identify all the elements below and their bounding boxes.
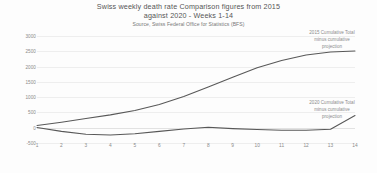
x-tick-label-3: 3 bbox=[85, 143, 88, 148]
x-tick-label-4: 4 bbox=[109, 143, 112, 148]
x-tick-label-5: 5 bbox=[134, 143, 137, 148]
x-tick-label-10: 10 bbox=[254, 143, 259, 148]
x-tick-label-6: 6 bbox=[158, 143, 161, 148]
series-lines bbox=[37, 36, 355, 143]
y-axis-labels: 300025002000150010005000-500 bbox=[10, 36, 36, 143]
annotation-2015-line-2: minus cumulative bbox=[292, 37, 372, 44]
annotation-2015: 2015 Cumulative Total minus cumulative p… bbox=[292, 30, 372, 51]
annotation-2015-line-3: projection bbox=[292, 44, 372, 51]
x-tick-label-7: 7 bbox=[182, 143, 185, 148]
annotation-2020-line-1: 2020 Cumulative Total bbox=[292, 100, 372, 107]
annotation-2020: 2020 Cumulative Total minus cumulative p… bbox=[292, 100, 372, 121]
x-tick-label-9: 9 bbox=[231, 143, 234, 148]
x-tick-label-12: 12 bbox=[303, 143, 308, 148]
y-tick-label--500: -500 bbox=[10, 141, 36, 146]
y-tick-label-2500: 2500 bbox=[10, 49, 36, 54]
x-axis-labels: 1234567891011121314 bbox=[37, 143, 355, 153]
annotation-2020-line-3: projection bbox=[292, 114, 372, 121]
annotation-2015-line-1: 2015 Cumulative Total bbox=[292, 30, 372, 37]
chart-title-line-2: against 2020 - Weeks 1-14 bbox=[0, 12, 377, 20]
x-tick-label-14: 14 bbox=[352, 143, 357, 148]
x-tick-label-11: 11 bbox=[279, 143, 284, 148]
x-tick-label-1: 1 bbox=[36, 143, 39, 148]
x-tick-label-2: 2 bbox=[60, 143, 63, 148]
x-tick-label-13: 13 bbox=[328, 143, 333, 148]
annotation-2020-line-2: minus cumulative bbox=[292, 107, 372, 114]
y-tick-label-2000: 2000 bbox=[10, 64, 36, 69]
y-tick-label-0: 0 bbox=[10, 125, 36, 130]
chart-title-line-1: Swiss weekly death rate Comparison figur… bbox=[0, 3, 377, 11]
y-tick-label-500: 500 bbox=[10, 110, 36, 115]
y-tick-label-1000: 1000 bbox=[10, 95, 36, 100]
x-tick-label-8: 8 bbox=[207, 143, 210, 148]
y-tick-label-3000: 3000 bbox=[10, 34, 36, 39]
chart-source-note: Source, Swiss Federal Office for Statist… bbox=[0, 22, 377, 28]
y-tick-label-1500: 1500 bbox=[10, 79, 36, 84]
chart-title-block: Swiss weekly death rate Comparison figur… bbox=[0, 3, 377, 27]
chart-container: Swiss weekly death rate Comparison figur… bbox=[0, 0, 377, 173]
